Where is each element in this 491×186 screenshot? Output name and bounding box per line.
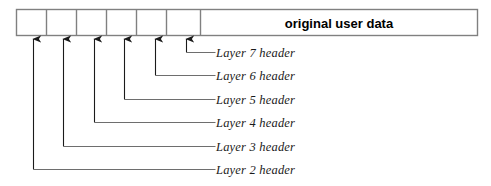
data-field-label: original user data (285, 16, 393, 29)
packet-bar-outline (17, 10, 478, 36)
callout-label-layer-5: Layer 5 header (216, 94, 295, 107)
callout-label-layer-6: Layer 6 header (216, 70, 295, 83)
callout-label-layer-7: Layer 7 header (216, 47, 295, 60)
callout-label-layer-2: Layer 2 header (216, 164, 295, 177)
callout-label-layer-3: Layer 3 header (216, 141, 295, 154)
encapsulation-diagram: original user data Layer 7 header Layer … (0, 0, 491, 186)
callout-leader-lines (34, 39, 216, 170)
callout-label-layer-4: Layer 4 header (216, 117, 295, 130)
packet-bar (17, 9, 478, 36)
